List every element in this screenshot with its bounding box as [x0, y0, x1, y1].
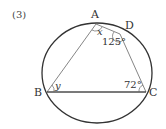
point-label-A: A [91, 9, 99, 20]
angle-label-C: 72° [124, 80, 142, 90]
angle-label-D: 125° [102, 37, 126, 47]
angle-label-y: y [55, 81, 61, 91]
point-label-D: D [125, 20, 134, 31]
problem-number: (3) [12, 9, 26, 20]
angle-arc-B [52, 85, 54, 92]
point-label-B: B [34, 87, 42, 98]
circumscribed-circle [42, 23, 152, 123]
geometry-figure: (3) A D B C x 125° y 72° [0, 0, 166, 129]
point-label-C: C [149, 87, 157, 98]
